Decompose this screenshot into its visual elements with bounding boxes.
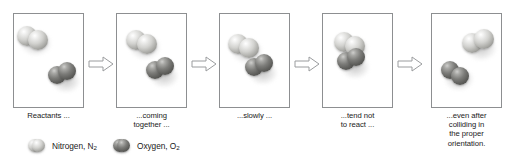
right-arrow-icon xyxy=(397,56,423,72)
arrow-1 xyxy=(88,56,114,72)
panel-1-nitrogen-molecule xyxy=(16,22,56,56)
oxygen-atom xyxy=(451,67,469,85)
panel-4-caption-line: to react ... xyxy=(341,120,375,129)
right-arrow-icon xyxy=(88,56,114,72)
panel-3-caption: ...slowly ... xyxy=(213,111,296,120)
right-arrow-icon xyxy=(191,56,217,72)
panel-2-caption: ...coming together ... xyxy=(110,111,193,129)
nitrogen-atom xyxy=(28,30,48,50)
panel-5-caption-line: orientation. xyxy=(448,139,485,148)
panel-4-caption: ...tend not to react ... xyxy=(316,111,399,129)
legend-item-oxygen: Oxygen, O2 xyxy=(113,138,180,153)
panel-4-frame xyxy=(322,13,393,108)
arrow-3 xyxy=(294,56,320,72)
oxygen-atom xyxy=(255,54,273,72)
arrow-4 xyxy=(397,56,423,72)
panel-5-caption-line: ...even after xyxy=(447,111,487,120)
legend-label-nitrogen: Nitrogen, N2 xyxy=(52,141,97,151)
panel-4-oxygen-molecule xyxy=(336,47,374,79)
panel-2-oxygen-molecule xyxy=(145,56,183,88)
nitrogen-swatch-icon xyxy=(28,138,46,153)
legend-label-oxygen: Oxygen, O2 xyxy=(137,141,180,151)
panel-3-oxygen-molecule xyxy=(244,53,282,85)
panel-2-caption-line: ...coming xyxy=(136,111,167,120)
panel-3-frame xyxy=(219,13,290,108)
right-arrow-icon xyxy=(294,56,320,72)
panel-5-caption-line: colliding in xyxy=(449,120,484,129)
reaction-sequence-figure: Reactants ... ...coming together ... xyxy=(0,0,515,168)
panel-5-nitrogen-molecule xyxy=(461,27,501,61)
oxygen-atom xyxy=(117,139,130,152)
panel-1-caption: Reactants ... xyxy=(7,111,90,120)
oxygen-atom xyxy=(347,48,365,66)
oxygen-swatch-icon xyxy=(113,138,131,153)
panel-2-frame xyxy=(116,13,187,108)
panel-1-oxygen-molecule xyxy=(47,61,85,93)
nitrogen-atom xyxy=(474,29,494,49)
panel-4-caption-line: ...tend not xyxy=(341,111,375,120)
panel-5-caption: ...even after colliding in the proper or… xyxy=(425,111,508,148)
oxygen-atom xyxy=(156,57,174,75)
legend-item-nitrogen: Nitrogen, N2 xyxy=(28,138,97,153)
arrow-2 xyxy=(191,56,217,72)
panel-2-nitrogen-molecule xyxy=(125,26,165,60)
oxygen-atom xyxy=(58,62,76,80)
panel-1-frame xyxy=(13,13,84,108)
nitrogen-atom xyxy=(137,34,157,54)
panel-2-caption-line: together ... xyxy=(133,120,169,129)
legend: Nitrogen, N2 Oxygen, O2 xyxy=(0,138,260,162)
nitrogen-atom xyxy=(32,139,45,152)
panel-5-caption-line: the proper xyxy=(449,129,484,138)
panel-5-oxygen-molecule xyxy=(440,59,478,91)
panel-5-frame xyxy=(431,13,502,108)
